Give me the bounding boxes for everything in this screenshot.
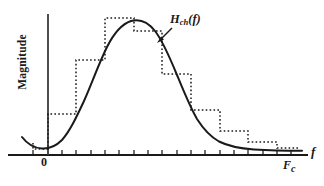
carrier-frequency-label: Fc	[283, 158, 295, 174]
x-axis-label: f	[311, 144, 315, 160]
curve-label-symbol: H	[170, 12, 180, 26]
plot-canvas	[0, 0, 324, 186]
figure-channel-response: Magnitude 0 f Fc Hch(f)	[0, 0, 324, 186]
curve-label-argument: (f)	[188, 12, 201, 26]
curve-label: Hch(f)	[170, 12, 201, 27]
x-axis-origin-label: 0	[41, 155, 47, 170]
staircase-approximation-curve	[33, 18, 300, 149]
carrier-frequency-subscript: c	[291, 163, 295, 174]
curve-label-subscript: ch	[180, 17, 189, 27]
y-axis-label: Magnitude	[16, 26, 28, 98]
carrier-frequency-symbol: F	[283, 158, 291, 172]
